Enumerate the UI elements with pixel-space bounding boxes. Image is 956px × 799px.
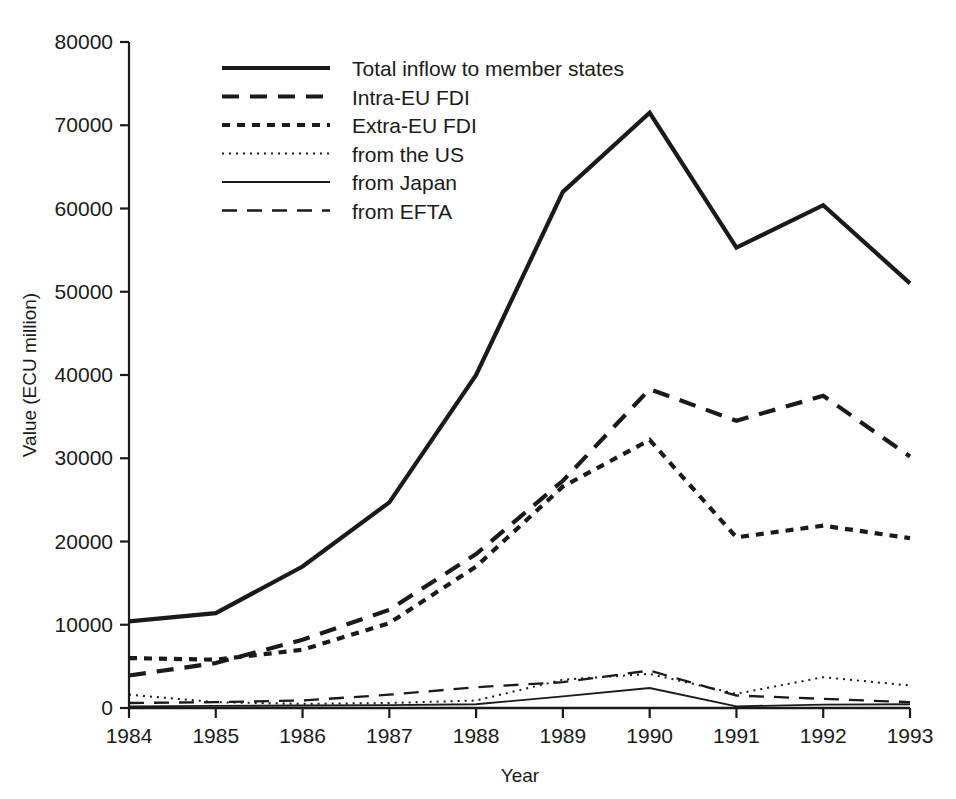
legend-label: from the US	[352, 143, 464, 166]
x-axis-tick-label: 1987	[366, 724, 413, 747]
x-axis-tick-label: 1992	[800, 724, 847, 747]
x-axis-title: Year	[501, 765, 540, 786]
x-axis-tick-label: 1985	[192, 724, 239, 747]
chart-container: 0100002000030000400005000060000700008000…	[0, 0, 956, 799]
x-axis-tick-label: 1990	[626, 724, 673, 747]
x-axis-tick-label: 1984	[106, 724, 153, 747]
x-axis-tick-label: 1988	[453, 724, 500, 747]
legend-label: from Japan	[352, 171, 457, 194]
fdi-line-chart: 0100002000030000400005000060000700008000…	[0, 0, 956, 799]
y-axis-tick-label: 70000	[55, 113, 113, 136]
y-axis-tick-label: 50000	[55, 280, 113, 303]
x-axis-tick-label: 1989	[540, 724, 587, 747]
y-axis-tick-label: 20000	[55, 530, 113, 553]
legend-label: Intra-EU FDI	[352, 86, 470, 109]
y-axis-tick-label: 0	[101, 696, 113, 719]
y-axis-tick-label: 30000	[55, 446, 113, 469]
y-axis-tick-label: 40000	[55, 363, 113, 386]
x-axis-tick-label: 1991	[713, 724, 760, 747]
y-axis-tick-label: 80000	[55, 30, 113, 53]
chart-background	[0, 0, 956, 799]
x-axis-tick-label: 1986	[279, 724, 326, 747]
y-axis-tick-label: 10000	[55, 613, 113, 636]
y-axis-tick-label: 60000	[55, 197, 113, 220]
legend-label: from EFTA	[352, 200, 452, 223]
legend-label: Total inflow to member states	[352, 57, 624, 80]
y-axis-title: Value (ECU million)	[19, 293, 40, 457]
x-axis-tick-label: 1993	[887, 724, 934, 747]
legend-label: Extra-EU FDI	[352, 114, 477, 137]
